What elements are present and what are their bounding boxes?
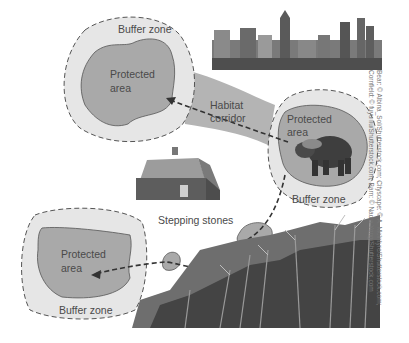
photo-credit-line-1: Bear: © Albina_Sol/Shutterstock.com; Cit… [375,70,383,330]
protected-area-label-bottom-left-2: area [61,262,82,274]
habitat-corridor-label-2: corridor [210,112,246,124]
diagram-canvas [0,0,409,343]
protected-area-label-top-left-2: area [110,82,131,94]
stepping-stones-label: Stepping stones [158,214,233,226]
protected-area-label-right-2: area [287,126,308,138]
habitat-corridor-label-1: Habitat [210,99,243,111]
protected-area-label-bottom-left-1: Protected [61,248,106,260]
protected-area-bottom-left [37,227,131,297]
protected-area-label-right-1: Protected [287,113,332,125]
photo-credit-line-2: Cornfield: © fuyu liu/Shutterstock.com; … [367,70,375,330]
stepping-stone-1 [162,252,180,270]
barn-photo [136,147,220,200]
cityscape-photo [212,10,382,70]
buffer-zone-label-bottom-left: Buffer zone [59,304,113,316]
buffer-zone-label-right: Buffer zone [292,193,346,205]
buffer-zone-label-top-left: Buffer zone [118,23,172,35]
photo-credits: Bear: © Albina_Sol/Shutterstock.com; Cit… [367,70,383,330]
protected-area-label-top-left-1: Protected [110,68,155,80]
